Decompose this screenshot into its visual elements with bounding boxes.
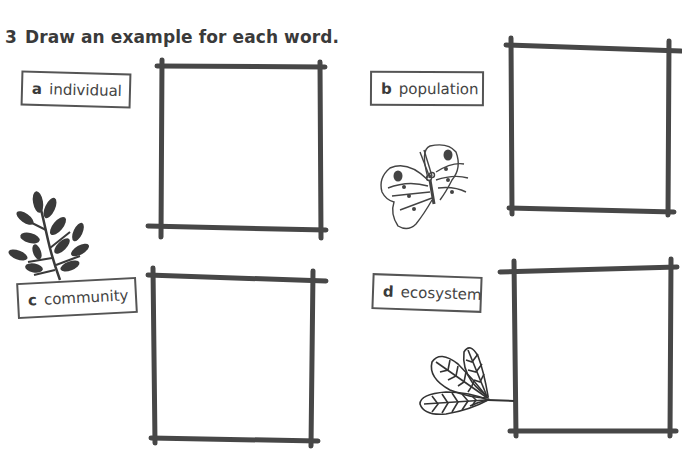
butterfly-icon	[381, 145, 468, 229]
drawing-box-individual[interactable]	[148, 60, 326, 238]
drawing-box-community[interactable]	[148, 268, 326, 446]
fern-leaf-icon	[420, 348, 514, 414]
worksheet-drawing-layer	[0, 0, 682, 472]
drawing-box-ecosystem[interactable]	[500, 259, 677, 436]
drawing-box-population[interactable]	[506, 38, 681, 215]
leafy-branch-icon	[7, 190, 91, 280]
